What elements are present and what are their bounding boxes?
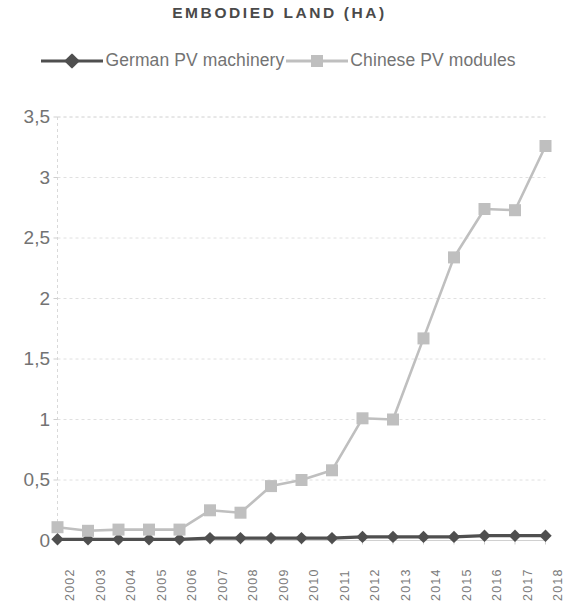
x-axis-label-2014: 2014 — [429, 568, 443, 601]
x-axis-label-2007: 2007 — [216, 568, 230, 601]
x-axis-label-2012: 2012 — [368, 568, 382, 601]
x-axis-label-2011: 2011 — [338, 569, 352, 601]
x-axis-label-2018: 2018 — [551, 568, 565, 601]
x-axis-label-2015: 2015 — [460, 568, 474, 601]
x-axis-label-2009: 2009 — [277, 568, 291, 601]
x-axis-label-2006: 2006 — [185, 568, 199, 601]
x-axis-label-2016: 2016 — [490, 568, 504, 601]
x-axis-label-2003: 2003 — [94, 568, 108, 601]
x-axis-label-2002: 2002 — [63, 568, 77, 601]
x-axis-label-2004: 2004 — [124, 568, 138, 601]
x-axis-label-2017: 2017 — [521, 568, 535, 601]
x-axis-label-2005: 2005 — [155, 568, 169, 601]
x-axis-label-2008: 2008 — [246, 568, 260, 601]
x-axis-label-2013: 2013 — [399, 568, 413, 601]
x-axis-label-2010: 2010 — [307, 568, 321, 601]
